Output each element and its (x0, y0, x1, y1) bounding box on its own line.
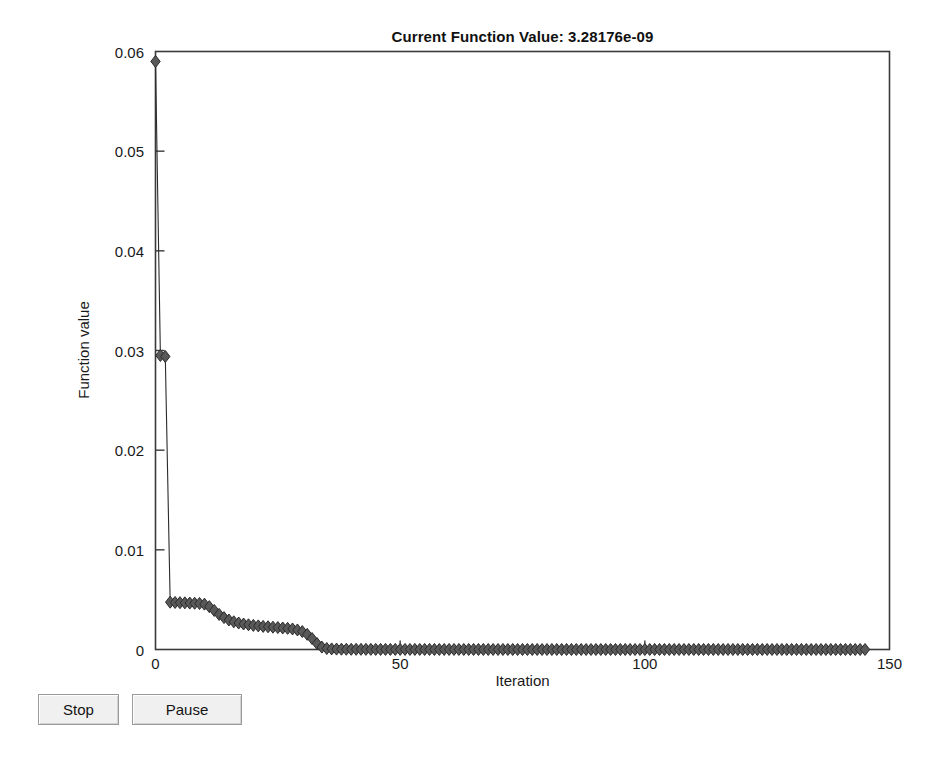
y-tick-label: 0.01 (60, 541, 144, 558)
data-series-points (151, 55, 870, 655)
series-line (156, 61, 866, 649)
x-tick-label: 0 (151, 655, 159, 672)
button-bar: Stop Pause (0, 694, 944, 734)
plot-region: Current Function Value: 3.28176e-09 00.0… (0, 0, 944, 700)
stop-button[interactable]: Stop (38, 694, 119, 725)
y-tick-label: 0.05 (60, 143, 144, 160)
axes-box (156, 52, 890, 650)
x-tick-label: 50 (392, 655, 409, 672)
y-tick-label: 0.02 (60, 442, 144, 459)
data-point-marker (151, 55, 160, 67)
y-tick-label: 0.06 (60, 43, 144, 60)
y-tick-label: 0 (60, 641, 144, 658)
optimization-figure-window: Current Function Value: 3.28176e-09 00.0… (0, 0, 944, 759)
x-tick-label: 100 (632, 655, 657, 672)
x-tick-label: 150 (877, 655, 902, 672)
x-axis-label: Iteration (155, 672, 890, 689)
axis-ticks (156, 151, 645, 649)
y-tick-label: 0.03 (60, 342, 144, 359)
y-axis-label: Function value (75, 301, 92, 399)
pause-button[interactable]: Pause (132, 694, 242, 725)
y-tick-label: 0.04 (60, 242, 144, 259)
